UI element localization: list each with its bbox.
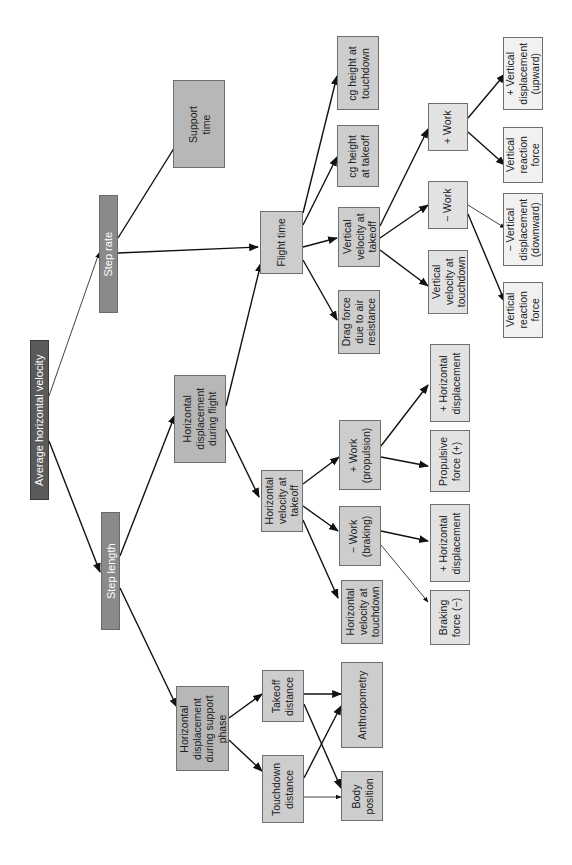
node-vertical-reaction-force-minus: Vertical reaction force [503, 282, 543, 338]
node-takeoff-distance: Takeoff distance [262, 670, 304, 722]
node-label: Horizontal displacement during support p… [178, 695, 228, 762]
node-label: Horizontal displacement during flight [181, 388, 219, 450]
node-label: + Horizontal displacement [438, 512, 463, 574]
node-label: Propulsive force (+) [438, 436, 463, 485]
node-vertical-velocity-at-touchdown: Vertical velocity at touchdown [428, 250, 468, 314]
node-label: cg height at takeoff [346, 134, 371, 177]
node-label: Step rate [102, 232, 115, 277]
node-label: + Work [442, 110, 455, 143]
node-label: Vertical reaction force [504, 136, 542, 173]
node-vertical-reaction-force-plus: Vertical reaction force [503, 127, 543, 183]
node-label: Support time [187, 106, 212, 143]
node-label: − Work (braking) [348, 515, 373, 556]
node-label: Drag force due to air resistance [340, 297, 378, 346]
node-average-horizontal-velocity: Average horizontal velocity [30, 340, 49, 500]
node-step-length: Step length [101, 512, 120, 630]
node-label: Anthropometry [356, 671, 369, 740]
node-vertical-displacement-downward: − Vertical displacement (downward) [503, 193, 543, 266]
node-horizontal-velocity-at-touchdown: Horizontal velocity at touchdown [341, 580, 383, 644]
node-label: + Horizontal displacement [438, 352, 463, 414]
node-work-propulsion: + Work (propulsion) [339, 420, 381, 490]
node-label: Braking force (−) [438, 598, 463, 637]
node-work-braking: − Work (braking) [339, 506, 381, 566]
node-label: Vertical velocity at takeoff [340, 214, 378, 261]
node-label: − Work [442, 188, 455, 221]
node-step-rate: Step rate [99, 195, 118, 313]
node-horizontal-displacement-braking: + Horizontal displacement [430, 504, 470, 582]
node-label: + Work (propulsion) [348, 427, 373, 482]
node-horizontal-displacement-during-support: Horizontal displacement during support p… [176, 686, 229, 771]
node-cg-height-at-takeoff: cg height at takeoff [337, 125, 379, 187]
node-flight-time: Flight time [260, 211, 303, 274]
node-label: − Vertical displacement (downward) [504, 199, 542, 261]
node-label: Vertical reaction force [504, 291, 542, 328]
node-propulsive-force: Propulsive force (+) [430, 430, 470, 492]
node-touchdown-distance: Touchdown distance [262, 755, 304, 823]
node-label: Average horizontal velocity [33, 354, 46, 485]
node-horizontal-velocity-at-takeoff: Horizontal velocity at takeoff [261, 470, 303, 532]
node-label: cg height at touchdown [346, 46, 371, 100]
node-label: + Vertical displacement (upward) [504, 43, 542, 105]
node-vertical-work-plus: + Work [428, 103, 468, 151]
node-anthropometry: Anthropometry [341, 662, 383, 748]
node-label: Flight time [275, 218, 288, 266]
node-drag-force-due-to-air-resistance: Drag force due to air resistance [338, 290, 380, 354]
node-horizontal-displacement-during-flight: Horizontal displacement during flight [174, 375, 226, 463]
node-vertical-work-minus: − Work [428, 181, 468, 229]
connector-arrows [0, 0, 572, 865]
node-braking-force: Braking force (−) [430, 590, 470, 645]
node-label: Horizontal velocity at takeoff [263, 477, 301, 524]
node-label: Step length [104, 543, 117, 599]
node-vertical-displacement-upward: + Vertical displacement (upward) [503, 37, 543, 110]
node-vertical-velocity-at-takeoff: Vertical velocity at takeoff [338, 207, 380, 267]
node-body-position: Body position [341, 771, 383, 821]
node-label: Vertical velocity at touchdown [429, 257, 467, 308]
node-horizontal-displacement-propulsion: + Horizontal displacement [430, 344, 470, 422]
node-label: Body position [349, 778, 374, 814]
node-label: Touchdown distance [271, 762, 296, 815]
node-label: Horizontal velocity at touchdown [343, 587, 381, 638]
node-cg-height-at-touchdown: cg height at touchdown [337, 36, 379, 110]
node-label: Takeoff distance [270, 676, 295, 715]
node-support-time: Support time [173, 80, 225, 168]
